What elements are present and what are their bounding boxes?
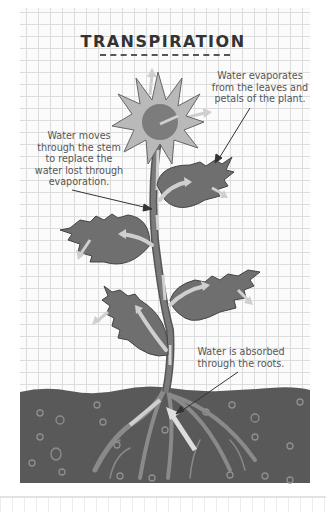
roots-label: Water is absorbed through the roots. bbox=[186, 346, 296, 369]
soil bbox=[20, 386, 310, 483]
flower-center bbox=[142, 104, 178, 140]
leaf-lower-left bbox=[102, 286, 168, 356]
page-divider bbox=[0, 496, 326, 512]
evaporation-label: Water evaporates from the leaves and pet… bbox=[196, 70, 324, 105]
stem-label: Water moves through the stem to replace … bbox=[24, 130, 134, 188]
leaf-upper-right bbox=[157, 157, 234, 208]
